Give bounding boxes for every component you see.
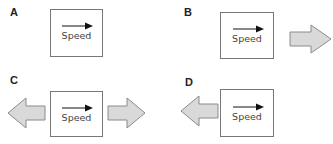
force-arrow-left-icon	[180, 95, 220, 127]
object-box-b: Speed	[220, 12, 274, 59]
force-arrow-right-icon	[107, 97, 147, 129]
speed-label: Speed	[221, 111, 273, 122]
force-arrow-right-icon	[289, 24, 333, 54]
speed-label: Speed	[51, 112, 102, 123]
object-box-c: Speed	[50, 91, 103, 137]
panel-label-b: B	[184, 6, 192, 18]
force-arrow-left-icon	[7, 97, 47, 129]
object-box-a: Speed	[50, 9, 103, 57]
panel-label-a: A	[10, 6, 18, 18]
object-box-d: Speed	[220, 89, 274, 137]
speed-label: Speed	[51, 30, 102, 41]
speed-label: Speed	[221, 33, 273, 44]
panel-label-c: C	[10, 74, 18, 86]
panel-label-d: D	[185, 76, 193, 88]
